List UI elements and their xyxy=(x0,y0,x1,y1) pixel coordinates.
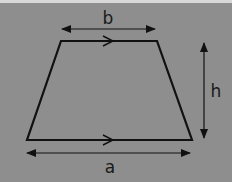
label-a: a xyxy=(105,157,115,177)
trapezoid-diagram: b h a xyxy=(0,0,232,182)
trapezoid-shape xyxy=(27,41,192,140)
diagram-svg: b h a xyxy=(0,0,232,182)
label-b: b xyxy=(103,8,114,28)
label-h: h xyxy=(211,81,222,101)
